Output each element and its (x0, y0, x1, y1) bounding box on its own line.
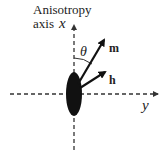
theta-label: θ (80, 44, 87, 59)
y-axis-label: y (140, 97, 149, 113)
x-axis-label: x (58, 15, 66, 31)
anisotropy-diagram: Anisotropy axis x θ m h y (0, 0, 168, 154)
axis-caption-line2: axis (33, 16, 54, 31)
vector-m-label: m (109, 41, 119, 55)
particle-ellipse (66, 72, 82, 116)
vector-h-label: h (109, 73, 116, 87)
